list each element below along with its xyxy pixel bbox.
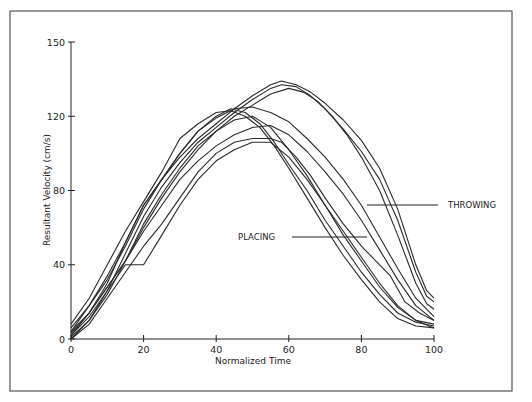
x-tick-label: 100: [425, 344, 443, 355]
y-tick-label: 0: [59, 334, 65, 345]
placing-label: PLACING: [238, 232, 275, 242]
series-layer: [71, 81, 434, 339]
y-tick-label: 40: [53, 259, 65, 270]
x-axis-title: Normalized Time: [215, 356, 291, 366]
line-chart: 04080120150 020406080100 Resultant Veloc…: [0, 0, 532, 402]
x-tick-label: 80: [355, 344, 367, 355]
y-tick-label: 150: [47, 37, 65, 48]
x-ticks: 020406080100: [68, 335, 443, 355]
x-tick-label: 20: [138, 344, 150, 355]
y-axis-title: Resultant Velocity (cm/s): [42, 134, 52, 246]
x-tick-label: 60: [283, 344, 295, 355]
chart-frame: [10, 11, 512, 391]
y-tick-label: 80: [53, 185, 65, 196]
y-tick-label: 120: [47, 111, 65, 122]
x-tick-label: 0: [68, 344, 74, 355]
x-tick-label: 40: [210, 344, 222, 355]
throwing-label: THROWING: [447, 200, 496, 210]
placing-trial-line-6: [71, 111, 434, 328]
